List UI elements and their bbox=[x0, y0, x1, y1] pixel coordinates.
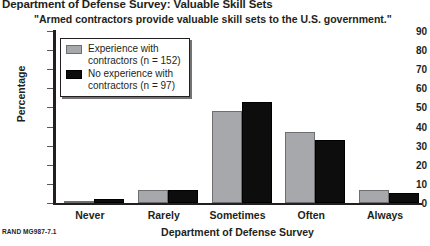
page-title: Department of Defense Survey: Valuable S… bbox=[2, 0, 273, 10]
bar bbox=[389, 193, 419, 203]
bar bbox=[168, 190, 198, 203]
source-note: RAND MG987-7.1 bbox=[2, 228, 57, 235]
chart-subtitle: "Armed contractors provide valuable skil… bbox=[34, 13, 392, 25]
bar bbox=[64, 201, 94, 203]
legend-item-experience: Experience with contractors (n = 152) bbox=[66, 43, 181, 66]
y-axis-title: Percentage bbox=[15, 39, 27, 149]
chart-legend: Experience with contractors (n = 152) No… bbox=[60, 38, 190, 97]
legend-label-experience: Experience with contractors (n = 152) bbox=[88, 43, 181, 66]
legend-swatch-icon-no-experience bbox=[66, 70, 82, 79]
y-axis-tick bbox=[47, 203, 53, 204]
bar bbox=[285, 132, 315, 203]
bar bbox=[315, 140, 345, 203]
bar-group bbox=[348, 31, 422, 203]
bar bbox=[242, 102, 272, 203]
bar bbox=[212, 111, 242, 203]
x-axis-title: Department of Defense Survey bbox=[53, 226, 422, 238]
bar-group bbox=[274, 31, 348, 203]
x-tick-label: Always bbox=[340, 209, 430, 221]
legend-item-no-experience: No experience with contractors (n = 97) bbox=[66, 68, 181, 91]
legend-label-no-experience: No experience with contractors (n = 97) bbox=[88, 68, 175, 91]
bar bbox=[359, 190, 389, 203]
bar-group bbox=[201, 31, 275, 203]
bar bbox=[138, 190, 168, 203]
bar bbox=[94, 199, 124, 203]
legend-swatch-icon-experience bbox=[66, 45, 82, 54]
